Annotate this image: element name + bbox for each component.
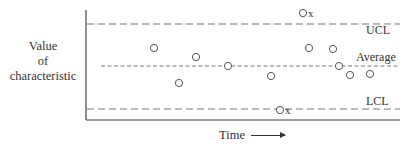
data-point [329, 45, 336, 52]
data-point [305, 44, 312, 51]
data-point [335, 62, 342, 69]
data-point [366, 70, 373, 77]
out-of-control-marker: x [308, 7, 314, 19]
x-axis-label: Time [219, 128, 285, 143]
control-chart-plot: xx [0, 0, 417, 151]
ucl-label: UCL [366, 23, 390, 38]
data-point [267, 72, 274, 79]
data-point [150, 44, 157, 51]
lcl-label: LCL [366, 94, 389, 109]
data-point [175, 79, 182, 86]
out-of-control-point [276, 106, 283, 113]
data-points: xx [150, 7, 373, 116]
arrow-right-icon [251, 135, 285, 136]
x-axis-title: Time [219, 128, 245, 143]
data-point [224, 62, 231, 69]
out-of-control-marker: x [285, 104, 291, 116]
out-of-control-point [299, 9, 306, 16]
data-point [192, 53, 199, 60]
data-point [346, 71, 353, 78]
average-label: Average [356, 50, 396, 65]
